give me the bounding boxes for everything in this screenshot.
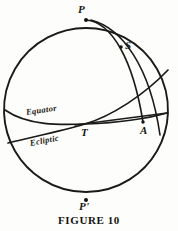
figure-10: P P' S T A Equator Ecliptic FIGURE 10 xyxy=(0,0,178,231)
point-dot-p xyxy=(84,18,88,22)
label-point-t: T xyxy=(81,127,88,138)
chord-t-to-a xyxy=(75,113,167,125)
label-point-p-prime: P' xyxy=(79,201,89,212)
hour-circle-through-star-arc xyxy=(86,20,143,122)
point-dot-s xyxy=(119,45,123,49)
figure-caption: FIGURE 10 xyxy=(0,214,178,226)
label-point-a: A xyxy=(140,125,148,136)
label-point-s: S xyxy=(125,40,131,51)
label-point-p: P xyxy=(78,4,85,15)
